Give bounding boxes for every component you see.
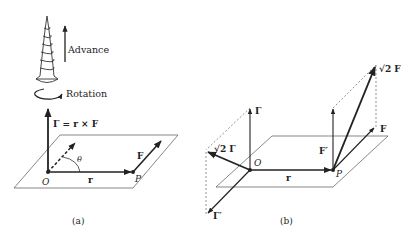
origin-point-a: [46, 170, 50, 174]
f-prime-label: F′: [319, 146, 328, 156]
plane-b: [216, 136, 388, 187]
r-label-a: r: [88, 175, 93, 185]
theta-label: θ: [77, 155, 82, 164]
rotation-label: Rotation: [66, 88, 107, 99]
gamma-label: Γ: [255, 106, 262, 116]
force-vector-b: [333, 128, 374, 170]
construction-lines: [206, 65, 376, 214]
r-label-b: r: [286, 173, 291, 183]
screw-icon: [36, 16, 58, 83]
force-label-b: F: [380, 124, 387, 134]
p-label-a: P: [134, 174, 142, 184]
origin-label-b: O: [254, 158, 262, 168]
p-label-b: P: [335, 169, 343, 179]
gamma-prime-vector: [208, 170, 250, 213]
torque-label-a: Γ = r × F: [53, 119, 99, 129]
panel-a: Advance Rotation Γ = r × F θ r O P F (a): [14, 16, 178, 226]
caption-a: (a): [72, 216, 84, 226]
caption-b: (b): [280, 216, 293, 226]
sqrt2-f-label: √2 F: [379, 64, 401, 74]
torque-diagram: Advance Rotation Γ = r × F θ r O P F (a): [0, 0, 415, 238]
origin-label-a: O: [42, 177, 50, 187]
force-label-a: F: [137, 151, 144, 161]
sqrt2-gamma-vector: [208, 152, 250, 170]
gamma-prime-label: Γ′: [213, 211, 222, 221]
advance-label: Advance: [67, 44, 109, 55]
origin-point-b: [248, 168, 252, 172]
rotation-arrow: [35, 89, 62, 99]
plane-a: [14, 135, 178, 188]
dashed-force-copy: [48, 143, 75, 172]
panel-b: Γ √2 Γ Γ′ r O P F′ √2 F F (b): [206, 64, 401, 226]
sqrt2-gamma-label: √2 Γ: [214, 144, 236, 154]
sqrt2-f-vector: [333, 67, 375, 170]
